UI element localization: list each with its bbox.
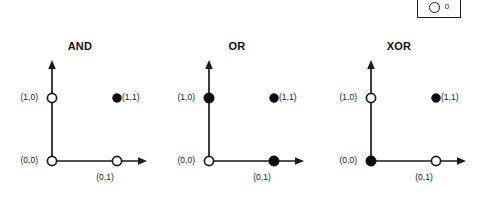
point-0-0 bbox=[204, 156, 213, 165]
x-axis-arrow-icon bbox=[295, 157, 304, 165]
panel-or-label-0-1: (0,1) bbox=[245, 173, 279, 182]
point-0-1 bbox=[112, 156, 121, 165]
panel-and-label-1-1: (1,1) bbox=[122, 93, 158, 102]
panel-and-label-0-1: (0,1) bbox=[88, 173, 122, 182]
point-1-0 bbox=[366, 93, 375, 102]
y-axis-arrow-icon bbox=[48, 60, 56, 69]
x-axis-arrow-icon bbox=[457, 157, 466, 165]
panel-xor-label-1-0: (1,0) bbox=[321, 93, 357, 102]
panel-xor-label-0-0: (0,0) bbox=[321, 156, 357, 165]
point-1-1 bbox=[432, 94, 440, 102]
panel-or-label-0-0: (0,0) bbox=[159, 156, 195, 165]
y-axis-arrow-icon bbox=[205, 60, 213, 69]
point-1-1 bbox=[113, 94, 121, 102]
panel-xor: XOR (0,0) (1,0) (0,1) (1,1) bbox=[319, 0, 479, 199]
point-0-0 bbox=[47, 156, 56, 165]
panel-xor-label-0-1: (0,1) bbox=[407, 173, 441, 182]
point-0-1 bbox=[269, 156, 279, 166]
panel-or-label-1-1: (1,1) bbox=[279, 93, 315, 102]
point-1-1 bbox=[270, 94, 278, 102]
point-0-0 bbox=[366, 156, 376, 166]
point-1-0 bbox=[204, 93, 214, 103]
figure-canvas: 0 AND (0,0) (1,0) (0,1) (1,1) OR ( bbox=[0, 0, 485, 199]
x-axis-arrow-icon bbox=[138, 157, 147, 165]
point-1-0 bbox=[47, 93, 56, 102]
y-axis-arrow-icon bbox=[367, 60, 375, 69]
point-0-1 bbox=[431, 156, 440, 165]
panel-and: AND (0,0) (1,0) (0,1) (1,1) bbox=[0, 0, 160, 199]
panel-xor-label-1-1: (1,1) bbox=[441, 93, 477, 102]
panel-or: OR (0,0) (1,0) (0,1) (1,1) bbox=[157, 0, 317, 199]
panel-or-label-1-0: (1,0) bbox=[159, 93, 195, 102]
panel-and-label-1-0: (1,0) bbox=[2, 93, 38, 102]
panel-and-label-0-0: (0,0) bbox=[2, 156, 38, 165]
